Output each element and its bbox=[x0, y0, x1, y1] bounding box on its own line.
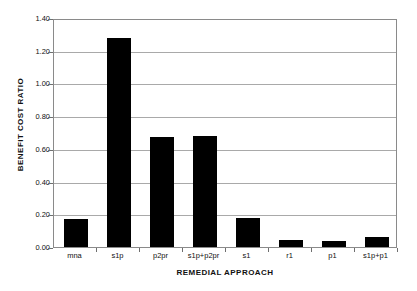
x-axis-title: REMEDIAL APPROACH bbox=[53, 268, 397, 277]
x-axis-tick-labels: mnas1pp2prs1p+p2prs1r1p1s1p+p1 bbox=[53, 251, 397, 265]
y-tick-label: 1.00 bbox=[24, 80, 50, 88]
x-tick-label: r1 bbox=[286, 251, 293, 261]
y-tick-label: 1.40 bbox=[24, 15, 50, 23]
y-tick-label: 0.60 bbox=[24, 146, 50, 154]
plot-area bbox=[53, 19, 397, 248]
x-tick-mark bbox=[182, 248, 183, 252]
y-tick-label: 0.00 bbox=[24, 244, 50, 252]
y-tick-label: 1.20 bbox=[24, 48, 50, 56]
y-tick-label: 0.20 bbox=[24, 211, 50, 219]
x-tick-mark bbox=[354, 248, 355, 252]
y-tick-mark bbox=[48, 19, 53, 20]
bar bbox=[64, 219, 88, 247]
x-tick-label: p2pr bbox=[153, 251, 168, 261]
y-tick-label: 0.40 bbox=[24, 179, 50, 187]
x-tick-label: s1 bbox=[243, 251, 251, 261]
bars-layer bbox=[54, 20, 396, 247]
y-tick-mark bbox=[48, 215, 53, 216]
bar bbox=[279, 240, 303, 247]
x-tick-mark bbox=[225, 248, 226, 252]
x-tick-mark bbox=[139, 248, 140, 252]
bar-chart: BENEFIT COST RATIO 0.000.200.400.600.801… bbox=[0, 0, 417, 291]
bar bbox=[150, 137, 174, 247]
y-tick-mark bbox=[48, 183, 53, 184]
y-tick-label: 0.80 bbox=[24, 113, 50, 121]
y-tick-mark bbox=[48, 84, 53, 85]
x-tick-mark bbox=[311, 248, 312, 252]
bar bbox=[365, 237, 389, 247]
y-axis-tick-labels: 0.000.200.400.600.801.001.201.40 bbox=[24, 0, 50, 291]
x-tick-mark bbox=[397, 248, 398, 252]
x-tick-label: s1p+p1 bbox=[363, 251, 388, 261]
bar bbox=[107, 38, 131, 247]
x-tick-label: p1 bbox=[328, 251, 336, 261]
x-tick-label: s1p+p2pr bbox=[188, 251, 219, 261]
y-tick-mark bbox=[48, 52, 53, 53]
x-tick-label: s1p bbox=[111, 251, 123, 261]
y-tick-mark bbox=[48, 117, 53, 118]
y-tick-mark bbox=[48, 248, 53, 249]
x-tick-label: mna bbox=[67, 251, 82, 261]
x-tick-mark bbox=[96, 248, 97, 252]
bar bbox=[236, 218, 260, 247]
bar bbox=[322, 241, 346, 247]
y-tick-mark bbox=[48, 150, 53, 151]
bar bbox=[193, 136, 217, 247]
x-tick-mark bbox=[268, 248, 269, 252]
